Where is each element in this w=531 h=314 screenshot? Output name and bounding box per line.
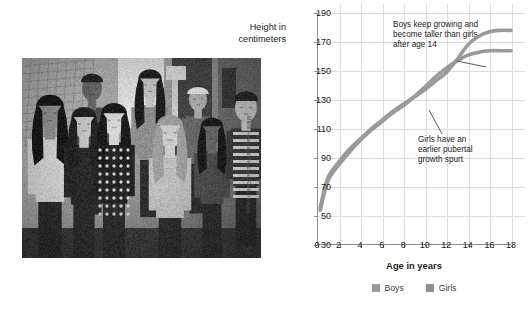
x-tick-label: 12 (436, 240, 456, 250)
legend-label-girls: Girls (439, 283, 457, 293)
y-tick-label: 130 (303, 96, 331, 105)
y-tick-label: 90 (303, 154, 331, 163)
chart-legend: Boys Girls (317, 283, 511, 293)
teenagers-photo (22, 58, 261, 258)
legend-item-girls: Girls (426, 283, 457, 293)
y-tick-label: 190 (303, 9, 331, 18)
x-tick-label: 14 (458, 240, 478, 250)
x-tick-label: 0 (307, 240, 327, 250)
annotation-leader-line (429, 110, 442, 134)
series-line-girls (320, 51, 511, 211)
y-tick-label: 110 (303, 125, 331, 134)
legend-label-boys: Boys (385, 283, 404, 293)
figure-root: Marili Forastieri/Photodisc/Getty Images… (0, 0, 531, 314)
growth-chart: Height in centimeters Age in years Boys … (290, 4, 528, 310)
photo-credit: Marili Forastieri/Photodisc/Getty Images (243, 116, 255, 246)
series-line-boys (320, 30, 511, 207)
y-tick-label: 170 (303, 38, 331, 47)
y-tick-label: 50 (303, 212, 331, 221)
x-tick-label: 16 (479, 240, 499, 250)
x-tick-label: 6 (372, 240, 392, 250)
x-tick-label: 10 (415, 240, 435, 250)
y-axis-label: Height in centimeters (220, 22, 286, 45)
legend-swatch-girls (426, 284, 434, 292)
y-tick-label: 150 (303, 67, 331, 76)
y-tick-label: 70 (303, 183, 331, 192)
annotation-leader-line (457, 61, 486, 67)
x-tick-label: 18 (501, 240, 521, 250)
x-tick-label: 2 (329, 240, 349, 250)
x-tick-label: 4 (350, 240, 370, 250)
photo-canvas (22, 58, 261, 258)
x-tick-label: 8 (393, 240, 413, 250)
legend-swatch-boys (372, 284, 380, 292)
legend-item-boys: Boys (372, 283, 404, 293)
